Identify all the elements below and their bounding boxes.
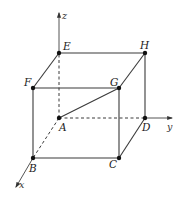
- label-B: B: [28, 162, 37, 174]
- label-x-axis: x: [19, 179, 25, 190]
- label-G: G: [110, 76, 118, 88]
- vertex-F: [31, 86, 35, 90]
- label-y-axis: y: [166, 121, 173, 132]
- vertex-D: [143, 116, 147, 120]
- edge-GH: [119, 53, 145, 88]
- cube-diagram: E H F G A D B C z y x: [0, 0, 188, 200]
- edge-EF: [33, 53, 59, 88]
- vertex-A: [57, 116, 61, 120]
- vertex-H: [143, 51, 147, 55]
- edge-AB: [33, 118, 59, 158]
- label-E: E: [62, 40, 71, 52]
- vertex-B: [31, 156, 35, 160]
- segment-AG: [59, 88, 119, 118]
- vertex-C: [117, 156, 121, 160]
- label-z-axis: z: [61, 10, 68, 21]
- label-C: C: [109, 158, 117, 170]
- label-A: A: [58, 121, 67, 133]
- label-F: F: [23, 76, 32, 88]
- label-H: H: [139, 39, 150, 51]
- label-D: D: [141, 121, 151, 133]
- vertex-E: [57, 51, 61, 55]
